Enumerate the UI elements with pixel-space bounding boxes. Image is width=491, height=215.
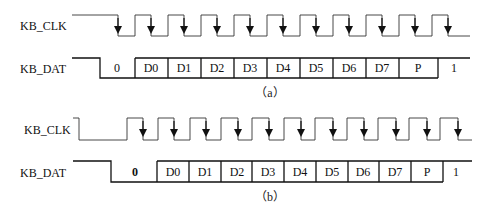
caption-b: （b） — [255, 190, 285, 204]
cell-parity: P — [415, 61, 422, 75]
cell-d3: D3 — [243, 61, 258, 75]
cell-start: 0 — [132, 165, 138, 179]
cell-d4: D4 — [293, 165, 308, 179]
cell-d6: D6 — [342, 61, 357, 75]
cell-stop: 1 — [451, 61, 457, 75]
dat-waveform-a — [72, 58, 470, 78]
cell-d0: D0 — [166, 165, 181, 179]
diagram-b: KB_CLK KB_DAT 0 D0 D1 D2 D3 D4 D5 — [20, 118, 472, 204]
cell-start: 0 — [114, 61, 120, 75]
diagram-a: KB_CLK KB_DAT 0 D0 D1 D2 D3 D4 D5 — [20, 15, 470, 100]
cell-d1: D1 — [177, 61, 192, 75]
cell-d5: D5 — [309, 61, 324, 75]
cell-d2: D2 — [210, 61, 225, 75]
dat-cells-a: 0 D0 D1 D2 D3 D4 D5 D6 D7 P 1 — [114, 61, 457, 75]
cell-parity: P — [424, 165, 431, 179]
clk-waveform-a — [72, 15, 470, 36]
clk-edge-arrows-b — [139, 121, 462, 137]
cell-d6: D6 — [356, 165, 371, 179]
dat-label-b: KB_DAT — [20, 166, 67, 180]
clk-edge-arrows-a — [114, 18, 452, 34]
timing-diagram: KB_CLK KB_DAT 0 D0 D1 D2 D3 D4 D5 — [0, 0, 491, 215]
cell-d0: D0 — [144, 61, 159, 75]
dat-cells-b: 0 D0 D1 D2 D3 D4 D5 D6 D7 P 1 — [132, 165, 459, 179]
cell-d7: D7 — [375, 61, 390, 75]
cell-d1: D1 — [198, 165, 213, 179]
cell-stop: 1 — [453, 165, 459, 179]
clk-label-a: KB_CLK — [20, 19, 67, 33]
caption-a: （a） — [255, 86, 284, 100]
cell-d4: D4 — [276, 61, 291, 75]
cell-d2: D2 — [230, 165, 245, 179]
dat-label-a: KB_DAT — [20, 62, 67, 76]
cell-d3: D3 — [261, 165, 276, 179]
cell-d7: D7 — [388, 165, 403, 179]
clk-label-b: KB_CLK — [24, 123, 71, 137]
cell-d5: D5 — [325, 165, 340, 179]
